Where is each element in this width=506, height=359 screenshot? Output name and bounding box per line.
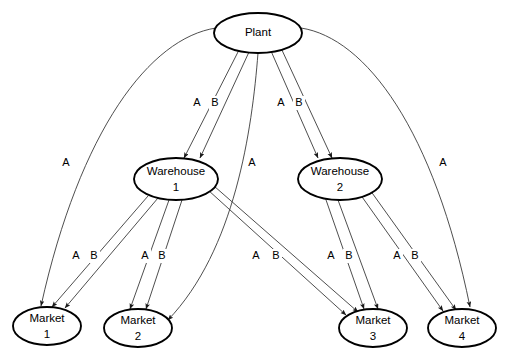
node-label-market2: Market (120, 314, 156, 326)
node-index-warehouse1: 1 (173, 181, 179, 193)
node-plant[interactable]: Plant (214, 13, 302, 53)
node-warehouse1[interactable]: Warehouse1 (134, 158, 218, 200)
node-market3[interactable]: Market3 (339, 309, 407, 347)
edge-label-plant-market4-A: A (439, 156, 447, 168)
node-market4[interactable]: Market4 (428, 309, 496, 347)
node-label-warehouse1: Warehouse (147, 165, 205, 177)
edge-label-plant-warehouse1-A: A (193, 96, 201, 108)
edge-label-plant-warehouse1-B: B (211, 96, 218, 108)
edge-plant-warehouse2-B (281, 48, 332, 158)
node-market1[interactable]: Market1 (13, 307, 81, 345)
edge-plant-warehouse1-B (200, 52, 249, 158)
diagram-canvas: AABAABAABABABABAB PlantWarehouse1Warehou… (0, 0, 506, 359)
edge-label-warehouse1-market2-A: A (141, 249, 149, 261)
edge-label-warehouse1-market1-A: A (72, 249, 80, 261)
node-label-warehouse2: Warehouse (311, 165, 369, 177)
edges-layer (41, 28, 470, 320)
node-index-market4: 4 (459, 330, 466, 342)
edge-label-plant-warehouse2-A: A (277, 96, 285, 108)
node-index-warehouse2: 2 (337, 181, 343, 193)
node-warehouse2[interactable]: Warehouse2 (298, 158, 382, 200)
node-label-plant: Plant (245, 26, 272, 38)
node-index-market3: 3 (370, 330, 376, 342)
node-label-market4: Market (444, 314, 480, 326)
edge-label-warehouse1-market3-A: A (252, 249, 260, 261)
edge-label-warehouse1-market1-B: B (90, 249, 97, 261)
node-label-market1: Market (29, 312, 65, 324)
edge-label-warehouse1-market3-B: B (272, 249, 279, 261)
edge-label-warehouse1-market2-B: B (158, 249, 165, 261)
edge-label-warehouse2-market3-B: B (345, 249, 352, 261)
node-market2[interactable]: Market2 (104, 309, 172, 347)
edge-label-warehouse2-market4-B: B (411, 249, 418, 261)
network-diagram: AABAABAABABABABAB PlantWarehouse1Warehou… (0, 0, 506, 359)
node-index-market2: 2 (135, 330, 141, 342)
edge-label-warehouse2-market3-A: A (327, 249, 335, 261)
edge-label-plant-market2-A: A (248, 156, 256, 168)
edge-label-plant-market1-A: A (62, 156, 70, 168)
node-label-market3: Market (355, 314, 391, 326)
edge-label-warehouse2-market4-A: A (393, 249, 401, 261)
node-index-market1: 1 (44, 328, 50, 340)
nodes-layer: PlantWarehouse1Warehouse2Market1Market2M… (13, 13, 496, 347)
edge-label-plant-warehouse2-B: B (295, 96, 302, 108)
